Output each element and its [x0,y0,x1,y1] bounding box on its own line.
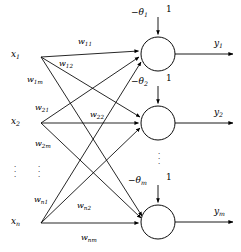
output-label-ym: ym [214,207,225,216]
weight-label-wn2: wn2 [77,202,91,210]
edge-group-input-n [41,62,141,223]
bias-input-value-m: 1 [166,173,172,182]
input-label-xn: xn [11,217,20,226]
weight-label-wn1: wn1 [34,196,48,204]
input-label-ellipsis: ... [11,163,19,178]
bias-label-theta2: −θ2 [131,77,148,86]
bias-input-value-1: 1 [166,5,172,14]
neuron-2 [141,106,175,140]
bias-input-value-2: 1 [166,74,172,83]
neuron-group [141,37,175,239]
neuron-1 [141,37,175,71]
weight-label-w21: w21 [35,104,49,112]
neural-network-diagram: x1 x2 xn ... ... ... w11 w12 w1m w21 w22… [0,0,241,252]
neuron-ellipsis: ... [155,150,163,165]
output-label-y1: y1 [214,39,223,48]
output-label-y2: y2 [214,108,223,117]
output-edge-group [175,54,233,222]
weight-label-w12: w12 [59,60,73,68]
bias-label-thetam: −θm [128,176,147,185]
input-label-x1: x1 [11,50,20,59]
weight-label-w22: w22 [90,111,104,119]
edge-group-input-1 [41,51,142,216]
input-label-x2: x2 [11,117,20,126]
edge-xn-y1 [41,62,141,223]
weight-label-w11: w11 [78,38,92,46]
weight-label-w2m: w2m [35,140,51,148]
edge-x1-ym [41,57,142,216]
diagram-canvas [0,0,241,252]
weight-label-w1m: w1m [27,76,43,84]
input-node-ellipsis: ... [35,163,43,178]
weight-label-wnm: wnm [81,234,97,242]
edge-x1-y1 [41,51,139,57]
bias-label-theta1: −θ1 [131,8,148,17]
neuron-m [141,205,175,239]
